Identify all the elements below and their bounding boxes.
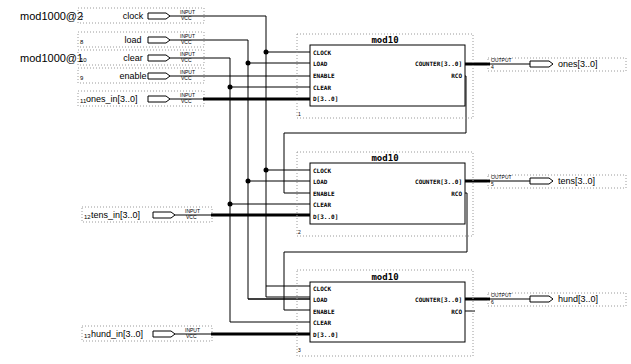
input-pin-ones-in[interactable]: 11 ones_in[3..0] INPUT VCC	[78, 91, 204, 106]
output-pin-ones[interactable]: OUTPUT 4 ones[3..0]	[488, 57, 626, 71]
svg-text:VCC: VCC	[181, 75, 192, 81]
svg-text:CLEAR: CLEAR	[313, 319, 331, 326]
svg-text:OUTPUT: OUTPUT	[491, 174, 512, 180]
junction-dot	[264, 168, 269, 173]
svg-text:7: 7	[80, 15, 84, 21]
svg-text:COUNTER[3..0]: COUNTER[3..0]	[415, 60, 462, 67]
svg-text:VCC: VCC	[181, 15, 192, 21]
svg-text:ENABLE: ENABLE	[313, 308, 335, 315]
output-port-icon	[530, 178, 553, 184]
svg-text:OUTPUT: OUTPUT	[491, 57, 512, 63]
input-pin-tens-in[interactable]: 12 tens_in[3..0] INPUT VCC	[82, 207, 212, 222]
svg-text:D[3..0]: D[3..0]	[313, 331, 338, 338]
mod10-block-3[interactable]: mod10 CLOCK LOAD ENABLE CLEAR D[3..0] CO…	[297, 270, 473, 356]
svg-text:hund_in[3..0]: hund_in[3..0]	[91, 329, 143, 339]
svg-text:RCO: RCO	[451, 72, 462, 79]
svg-text:CLOCK: CLOCK	[313, 49, 331, 56]
junction-dot	[246, 61, 251, 66]
input-port-icon	[148, 96, 170, 102]
svg-text:ENABLE: ENABLE	[313, 190, 335, 197]
output-port-icon	[530, 61, 553, 67]
junction-dot	[264, 50, 269, 55]
svg-text:LOAD: LOAD	[313, 178, 328, 185]
svg-text:VCC: VCC	[181, 39, 192, 45]
svg-text:mod10: mod10	[371, 153, 398, 163]
input-port-icon	[148, 73, 170, 79]
svg-text:LOAD: LOAD	[313, 60, 328, 67]
svg-text:LOAD: LOAD	[313, 296, 328, 303]
output-pin-tens[interactable]: OUTPUT 5 tens[3..0]	[488, 174, 626, 188]
group-label-mod1000-1: mod1000@1	[20, 52, 83, 64]
svg-text:4: 4	[491, 64, 494, 70]
svg-text:mod10: mod10	[371, 35, 398, 45]
svg-text:RCO: RCO	[451, 308, 462, 315]
svg-text:ones_in[3..0]: ones_in[3..0]	[86, 94, 138, 104]
group-label-mod1000-2: mod1000@2	[20, 10, 83, 22]
input-port-icon	[153, 331, 175, 337]
junction-dot	[228, 85, 233, 90]
svg-text:10: 10	[80, 57, 87, 63]
svg-text:enable: enable	[119, 71, 146, 81]
svg-text:CLEAR: CLEAR	[313, 84, 331, 91]
svg-text:6: 6	[491, 299, 494, 305]
junction-dot	[246, 179, 251, 184]
svg-text:CLOCK: CLOCK	[313, 167, 331, 174]
svg-text:ones[3..0]: ones[3..0]	[558, 59, 598, 69]
svg-text:clock: clock	[123, 11, 144, 21]
svg-text:9: 9	[80, 75, 84, 81]
svg-text:hund[3..0]: hund[3..0]	[558, 294, 598, 304]
schematic-canvas: mod1000@2 mod1000@1 7 clock INPUT VCC 8 …	[0, 0, 631, 364]
input-port-icon	[153, 212, 175, 218]
svg-text:ENABLE: ENABLE	[313, 72, 335, 79]
input-pin-clock[interactable]: 7 clock INPUT VCC	[78, 8, 204, 23]
svg-text:RCO: RCO	[451, 190, 462, 197]
svg-text:VCC: VCC	[186, 333, 197, 339]
svg-text:tens_in[3..0]: tens_in[3..0]	[91, 210, 140, 220]
svg-text:tens[3..0]: tens[3..0]	[558, 176, 595, 186]
svg-text:3: 3	[298, 347, 301, 353]
mod10-block-1[interactable]: mod10 CLOCK LOAD ENABLE CLEAR D[3..0] CO…	[297, 34, 473, 118]
svg-text:OUTPUT: OUTPUT	[491, 292, 512, 298]
svg-text:mod10: mod10	[371, 272, 398, 282]
svg-text:CLEAR: CLEAR	[313, 201, 331, 208]
mod10-block-2[interactable]: mod10 CLOCK LOAD ENABLE CLEAR D[3..0] CO…	[297, 152, 473, 236]
svg-text:VCC: VCC	[181, 98, 192, 104]
svg-text:CLOCK: CLOCK	[313, 285, 331, 292]
input-pin-enable[interactable]: 9 enable INPUT VCC	[78, 68, 204, 83]
svg-text:load: load	[124, 35, 141, 45]
output-port-icon	[530, 296, 553, 302]
svg-text:2: 2	[298, 229, 301, 235]
input-port-icon	[148, 13, 170, 19]
svg-text:VCC: VCC	[186, 214, 197, 220]
output-pin-hund[interactable]: OUTPUT 6 hund[3..0]	[488, 292, 626, 306]
svg-text:COUNTER[3..0]: COUNTER[3..0]	[415, 296, 462, 303]
svg-text:D[3..0]: D[3..0]	[313, 95, 338, 102]
input-port-icon	[148, 55, 170, 61]
svg-text:1: 1	[298, 111, 301, 117]
svg-text:VCC: VCC	[181, 57, 192, 63]
svg-text:clear: clear	[123, 53, 143, 63]
svg-text:COUNTER[3..0]: COUNTER[3..0]	[415, 178, 462, 185]
junction-dot	[228, 202, 233, 207]
svg-text:5: 5	[491, 181, 494, 187]
svg-text:8: 8	[80, 39, 84, 45]
svg-text:D[3..0]: D[3..0]	[313, 213, 338, 220]
input-pin-hund-in[interactable]: 13 hund_in[3..0] INPUT VCC	[82, 326, 212, 341]
input-pin-load[interactable]: 8 load INPUT VCC	[78, 32, 204, 47]
input-pin-clear[interactable]: 10 clear INPUT VCC	[78, 50, 204, 65]
input-port-icon	[148, 37, 170, 43]
